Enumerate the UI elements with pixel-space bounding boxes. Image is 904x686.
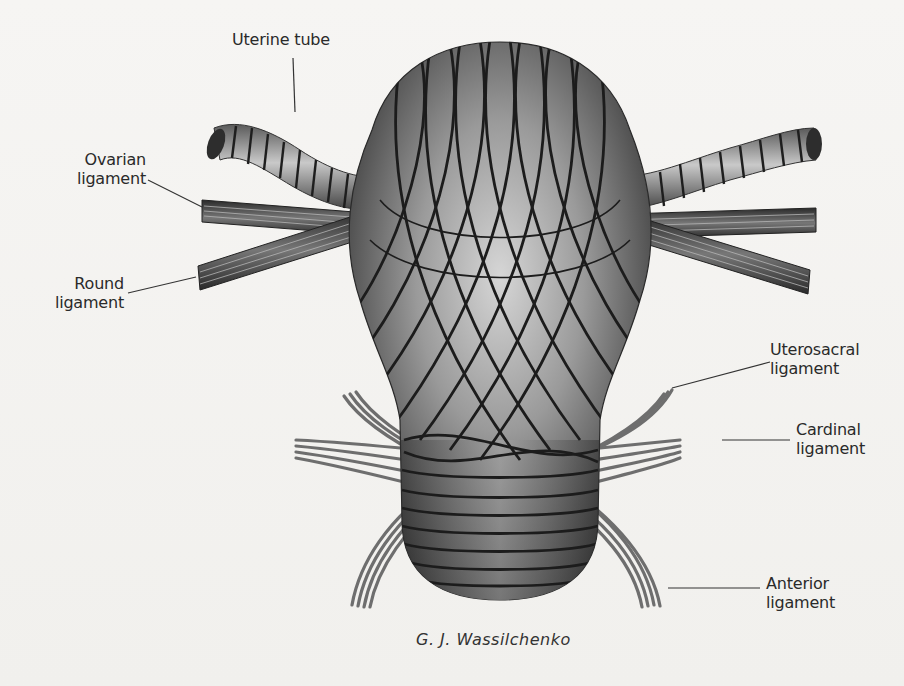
artist-signature: G. J. Wassilchenko (416, 630, 571, 649)
label-ovarian-ligament: Ovarian ligament (62, 150, 146, 188)
uterus-body (330, 40, 670, 600)
label-anterior-ligament: Anterior ligament (766, 574, 835, 612)
label-cardinal-ligament: Cardinal ligament (796, 420, 865, 458)
uterine-tube-right (620, 128, 822, 210)
label-uterosacral-ligament: Uterosacral ligament (770, 340, 859, 378)
label-anterior-line1: Anterior (766, 574, 835, 593)
label-uterine-tube: Uterine tube (232, 30, 330, 49)
label-uterosacral-line1: Uterosacral (770, 340, 859, 359)
label-uterosacral-line2: ligament (770, 359, 859, 378)
label-round-line1: Round (40, 274, 124, 293)
label-ovarian-line1: Ovarian (62, 150, 146, 169)
label-round-ligament: Round ligament (40, 274, 124, 312)
leader-uterine-tube (293, 58, 295, 112)
leader-ovarian-ligament (148, 180, 202, 207)
leader-round-ligament (128, 277, 196, 293)
label-ovarian-line2: ligament (62, 169, 146, 188)
label-round-line2: ligament (40, 293, 124, 312)
leader-uterosacral-ligament (672, 362, 770, 388)
label-cardinal-line1: Cardinal (796, 420, 865, 439)
label-anterior-line2: ligament (766, 593, 835, 612)
label-cardinal-line2: ligament (796, 439, 865, 458)
